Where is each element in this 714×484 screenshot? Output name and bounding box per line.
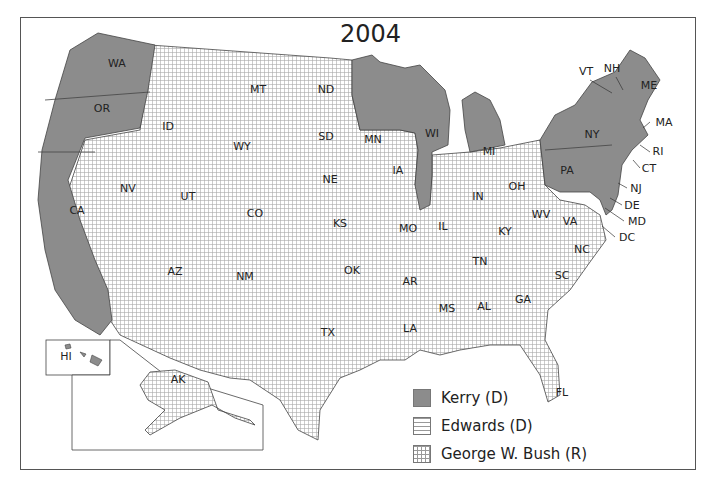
svg-text:WV: WV [532, 208, 551, 221]
svg-text:MO: MO [399, 222, 417, 235]
svg-text:ND: ND [318, 83, 335, 96]
svg-text:ME: ME [641, 79, 657, 92]
svg-text:WA: WA [108, 57, 126, 70]
svg-text:NV: NV [120, 182, 136, 195]
svg-text:UT: UT [181, 190, 196, 203]
legend-label-bush: George W. Bush (R) [441, 445, 587, 463]
svg-text:NJ: NJ [630, 182, 641, 195]
svg-text:OK: OK [344, 264, 361, 277]
svg-text:CO: CO [247, 207, 264, 220]
svg-text:LA: LA [403, 322, 417, 335]
svg-text:WY: WY [233, 140, 251, 153]
svg-text:OR: OR [94, 102, 111, 115]
svg-text:SC: SC [555, 269, 570, 282]
state-michigan-kerry [462, 92, 505, 152]
svg-text:KS: KS [333, 217, 347, 230]
svg-text:SD: SD [318, 130, 333, 143]
svg-text:MA: MA [655, 116, 672, 129]
svg-text:DE: DE [624, 199, 639, 212]
svg-text:AL: AL [477, 300, 492, 313]
svg-text:DC: DC [619, 231, 635, 244]
svg-text:MT: MT [250, 83, 266, 96]
svg-text:AR: AR [402, 275, 418, 288]
svg-text:ID: ID [162, 120, 174, 133]
svg-text:NE: NE [322, 173, 337, 186]
svg-text:NM: NM [236, 270, 254, 283]
svg-text:OH: OH [509, 180, 526, 193]
svg-text:WI: WI [425, 127, 439, 140]
us-map: WA OR CA NV ID MT WY UT CO AZ NM ND SD N… [0, 0, 714, 484]
svg-text:MI: MI [483, 145, 496, 158]
svg-text:AK: AK [171, 373, 187, 386]
state-northeast-kerry [540, 50, 660, 215]
svg-text:KY: KY [498, 225, 512, 238]
svg-text:NY: NY [585, 128, 600, 141]
svg-text:VT: VT [579, 65, 594, 78]
legend-item-bush: George W. Bush (R) [413, 440, 587, 468]
svg-text:HI: HI [60, 350, 72, 363]
svg-text:IN: IN [472, 190, 483, 203]
svg-text:CT: CT [642, 162, 657, 175]
legend-item-edwards: Edwards (D) [413, 412, 587, 440]
hawaii-inset [46, 340, 110, 375]
edwards-swatch-icon [413, 417, 431, 435]
svg-text:NH: NH [604, 62, 621, 75]
bush-swatch-icon [413, 445, 431, 463]
svg-text:GA: GA [515, 293, 532, 306]
svg-text:MS: MS [439, 302, 455, 315]
svg-text:NC: NC [574, 243, 590, 256]
legend-item-kerry: Kerry (D) [413, 384, 587, 412]
svg-text:TN: TN [472, 255, 488, 268]
legend-label-kerry: Kerry (D) [441, 389, 508, 407]
svg-text:PA: PA [560, 164, 574, 177]
svg-text:IA: IA [393, 164, 404, 177]
svg-text:MN: MN [364, 133, 382, 146]
map-legend: Kerry (D) Edwards (D) George W. Bush (R) [413, 384, 587, 468]
svg-text:AZ: AZ [167, 265, 183, 278]
svg-text:RI: RI [653, 145, 664, 158]
legend-label-edwards: Edwards (D) [441, 417, 533, 435]
svg-text:CA: CA [69, 204, 85, 217]
svg-text:TX: TX [320, 326, 336, 339]
svg-text:VA: VA [563, 215, 578, 228]
svg-text:IL: IL [438, 220, 448, 233]
kerry-swatch-icon [413, 389, 431, 407]
svg-text:MD: MD [628, 215, 646, 228]
